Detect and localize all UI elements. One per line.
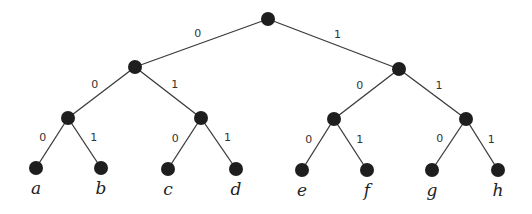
internal-node-n10 — [327, 112, 341, 126]
edge-bit-label: 1 — [224, 131, 231, 144]
leaf-label-f: f — [362, 180, 373, 200]
edge-bit-label: 1 — [436, 79, 443, 92]
internal-node-n0 — [128, 60, 142, 74]
internal-node-n01 — [194, 111, 208, 125]
edge-n0-n01 — [135, 67, 201, 118]
leaf-label-a: a — [31, 178, 41, 198]
internal-node-root — [261, 12, 275, 26]
internal-node-n1 — [392, 62, 406, 76]
binary-tree-diagram: 01010101010101abcdefgh — [0, 0, 532, 214]
leaf-node-c — [161, 162, 175, 176]
edge-bit-label: 0 — [436, 132, 443, 145]
edge-root-n1 — [268, 19, 399, 69]
edge-bit-label: 0 — [305, 133, 312, 146]
leaf-label-h: h — [493, 180, 504, 200]
edge-bit-label: 1 — [488, 133, 495, 146]
leaf-node-f — [360, 163, 374, 177]
edge-bit-label: 1 — [90, 131, 97, 144]
leaf-node-b — [94, 161, 108, 175]
edge-bit-label: 1 — [171, 78, 178, 91]
edge-bit-label: 0 — [194, 27, 201, 40]
leaf-label-e: e — [297, 180, 307, 200]
leaf-node-g — [425, 163, 439, 177]
edge-bit-label: 1 — [356, 133, 363, 146]
leaf-label-c: c — [163, 179, 173, 199]
edge-bit-label: 0 — [91, 78, 98, 91]
edge-n0-n00 — [68, 67, 135, 118]
edge-n1-n11 — [399, 69, 466, 119]
leaf-label-d: d — [231, 179, 242, 199]
leaf-node-a — [29, 161, 43, 175]
edge-bit-label: 0 — [39, 131, 46, 144]
edge-bit-label: 0 — [356, 79, 363, 92]
leaf-node-d — [229, 162, 243, 176]
edge-n1-n10 — [334, 69, 399, 119]
internal-node-n00 — [61, 111, 75, 125]
internal-node-n11 — [459, 112, 473, 126]
leaf-node-e — [295, 163, 309, 177]
leaf-node-h — [491, 163, 505, 177]
edge-root-n0 — [135, 19, 268, 67]
edge-bit-label: 0 — [172, 132, 179, 145]
leaf-label-g: g — [427, 180, 438, 200]
edge-bit-label: 1 — [334, 28, 341, 41]
leaf-label-b: b — [96, 178, 107, 198]
